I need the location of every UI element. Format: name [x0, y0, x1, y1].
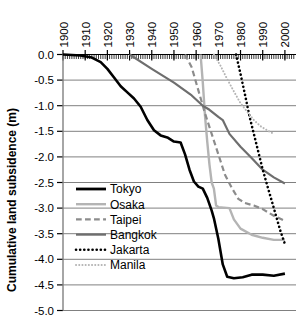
y-tick-label: -0.5: [34, 74, 54, 86]
x-tick-label: 1990: [257, 22, 269, 48]
x-tick-label: 1900: [58, 22, 70, 48]
legend-label-taipei: Taipei: [110, 213, 141, 227]
y-tick-label: -4.0: [34, 253, 54, 265]
x-tick-label: 1960: [191, 22, 203, 48]
chart-container: 1900191019201930194019501960197019801990…: [0, 0, 304, 335]
legend-label-osaka: Osaka: [110, 198, 145, 212]
y-tick-label: -1.0: [34, 100, 54, 112]
legend-label-bangkok: Bangkok: [110, 228, 158, 242]
x-tick-label: 1930: [124, 22, 136, 48]
y-tick-label: -5.0: [34, 305, 54, 317]
y-tick-label: -3.5: [34, 228, 54, 240]
x-tick-label: 1980: [235, 22, 247, 48]
legend-label-tokyo: Tokyo: [110, 182, 142, 196]
x-tick-label: 1950: [168, 22, 180, 48]
x-tick-label: 1920: [102, 22, 114, 48]
x-tick-label: 2000: [279, 22, 291, 48]
y-tick-label: -2.5: [34, 177, 54, 189]
y-tick-label: -1.5: [34, 125, 54, 137]
cumulative-land-subsidence-chart: 1900191019201930194019501960197019801990…: [0, 0, 304, 335]
y-tick-label: -4.5: [34, 279, 54, 291]
y-tick-label: -3.0: [34, 202, 54, 214]
x-tick-label: 1940: [146, 22, 158, 48]
x-tick-label: 1970: [213, 22, 225, 48]
y-tick-label: -2.0: [34, 151, 54, 163]
legend-label-jakarta: Jakarta: [110, 243, 150, 257]
legend-label-manila: Manila: [110, 258, 146, 272]
y-tick-label: 0.0: [38, 49, 54, 61]
x-tick-label: 1910: [80, 22, 92, 48]
y-axis-title: Cumulative land subsidence (m): [5, 108, 19, 292]
